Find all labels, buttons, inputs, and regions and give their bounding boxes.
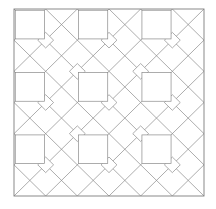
plain-square-layer (15, 10, 171, 163)
geometric-pattern-figure (0, 0, 216, 209)
plain-square (15, 73, 44, 102)
plain-square (79, 73, 108, 102)
plain-square (79, 135, 108, 164)
plain-square (15, 10, 44, 39)
plain-square (15, 135, 44, 164)
plain-square (142, 135, 171, 164)
plain-square (142, 73, 171, 102)
plain-square (142, 10, 171, 39)
plain-square (79, 10, 108, 39)
